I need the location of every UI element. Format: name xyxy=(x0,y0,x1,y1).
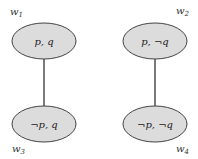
node-w2: p, ¬q xyxy=(123,23,187,59)
node-w3: ¬p, q xyxy=(12,106,76,142)
world-label-w2: w2 xyxy=(176,5,190,18)
world-label-w3: w3 xyxy=(12,143,26,156)
kripke-diagram: p, q w1 p, ¬q w2 ¬p, q w3 ¬p, ¬q w4 xyxy=(0,0,198,159)
node-w3-content: ¬p, q xyxy=(30,119,58,130)
node-w4: ¬p, ¬q xyxy=(123,106,187,142)
node-w4-content: ¬p, ¬q xyxy=(137,119,173,130)
world-label-w4: w4 xyxy=(176,143,189,156)
node-w1: p, q xyxy=(12,23,76,59)
world-label-w1: w1 xyxy=(10,6,23,19)
node-w1-content: p, q xyxy=(34,36,53,47)
node-w2-content: p, ¬q xyxy=(141,36,169,47)
